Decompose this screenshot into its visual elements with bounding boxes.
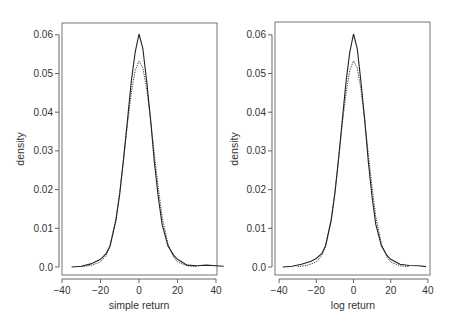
x-tick-label: −20	[92, 285, 109, 296]
y-tick-label: 0.02	[247, 184, 267, 195]
x-tick-label: 40	[210, 285, 222, 296]
y-tick-label: 0.03	[34, 145, 54, 156]
series-dotted-normal	[298, 61, 410, 267]
y-tick-label: 0.0	[39, 262, 53, 273]
plot-frame	[275, 22, 430, 275]
x-tick-label: 40	[422, 285, 434, 296]
y-tick-label: 0.05	[34, 68, 54, 79]
y-tick-label: 0.01	[247, 223, 267, 234]
series-solid-empirical	[72, 34, 224, 267]
y-axis-title: density	[14, 132, 26, 166]
y-tick-label: 0.06	[34, 29, 54, 40]
series-dotted-normal	[81, 61, 197, 267]
x-axis-title: log return	[331, 299, 376, 311]
y-tick-label: 0.02	[34, 184, 54, 195]
x-axis: −40−2002040	[271, 279, 434, 296]
x-axis: −40−2002040	[54, 279, 222, 296]
x-tick-label: 20	[172, 285, 184, 296]
plot-frame	[62, 23, 217, 275]
figure: 0.00.010.020.030.040.050.06 −40−2002040 …	[0, 0, 450, 323]
series-solid-empirical	[283, 34, 426, 267]
x-tick-label: 20	[385, 285, 397, 296]
y-tick-label: 0.01	[34, 223, 54, 234]
y-axis: 0.00.010.020.030.040.050.06	[247, 29, 272, 272]
y-tick-label: 0.0	[252, 262, 266, 273]
y-tick-label: 0.06	[247, 29, 267, 40]
y-tick-label: 0.04	[34, 107, 54, 118]
y-tick-label: 0.04	[247, 107, 267, 118]
x-tick-label: −40	[54, 285, 71, 296]
x-tick-label: −40	[271, 285, 288, 296]
x-tick-label: −20	[308, 285, 325, 296]
x-tick-label: 0	[136, 285, 142, 296]
panel-simple-return: 0.00.010.020.030.040.050.06 −40−2002040 …	[14, 23, 224, 311]
y-axis-title: density	[228, 132, 240, 166]
y-axis: 0.00.010.020.030.040.050.06	[34, 29, 59, 272]
y-tick-label: 0.03	[247, 145, 267, 156]
x-axis-title: simple return	[109, 299, 170, 311]
panel-log-return: 0.00.010.020.030.040.050.06 −40−2002040 …	[228, 22, 434, 311]
x-tick-label: 0	[351, 285, 357, 296]
y-tick-label: 0.05	[247, 68, 267, 79]
